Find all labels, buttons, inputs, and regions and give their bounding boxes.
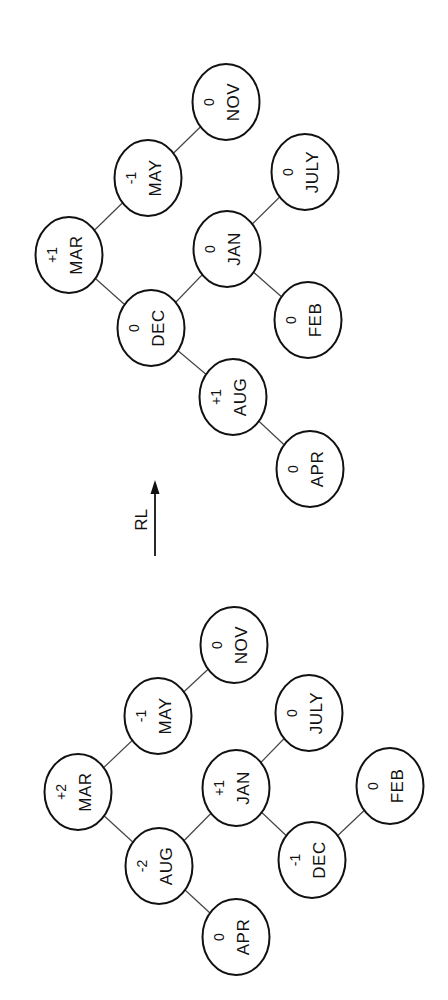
nodes-layer: +2MAR-1MAY0NOV-2AUG+1JAN0JULY0APR-1DEC0F… (36, 64, 424, 975)
balance-factor: +1 (208, 389, 224, 405)
node-label: AUG (157, 847, 176, 885)
node-label: JAN (234, 771, 253, 805)
node-label: APR (234, 919, 253, 955)
node-label: AUG (231, 378, 250, 416)
node-label: MAR (76, 772, 95, 811)
tree-node-may: -1MAY (125, 678, 192, 754)
balance-factor: 0 (202, 245, 218, 253)
node-label: JULY (303, 151, 322, 193)
tree-node-mar: +1MAR (36, 217, 103, 293)
node-label: FEB (388, 769, 407, 804)
tree-node-dec: 0DEC (118, 290, 185, 366)
tree-node-nov: 0NOV (193, 64, 260, 140)
balance-factor: 0 (285, 465, 301, 473)
tree-node-aug: +1AUG (200, 359, 267, 435)
node-label: JULY (307, 692, 326, 734)
node-label: MAR (67, 235, 86, 274)
node-label: DEC (310, 841, 329, 878)
node-label: MAY (146, 159, 165, 196)
arrow-up-icon (151, 480, 160, 494)
tree-node-july: 0JULY (272, 134, 339, 210)
node-label: FEB (306, 303, 325, 338)
tree-node-mar: +2MAR (45, 754, 112, 830)
node-label: NOV (232, 626, 251, 665)
node-label: JAN (225, 232, 244, 266)
tree-node-may: -1MAY (115, 140, 182, 216)
avl-rotation-diagram: +2MAR-1MAY0NOV-2AUG+1JAN0JULY0APR-1DEC0F… (0, 0, 448, 1000)
balance-factor: -2 (134, 860, 150, 873)
balance-factor: 0 (283, 316, 299, 324)
rotation-indicator: RL (132, 480, 160, 556)
tree-node-july: 0JULY (276, 675, 343, 751)
balance-factor: -1 (123, 172, 139, 185)
balance-factor: 0 (211, 933, 227, 941)
tree-after-rotation: +1MAR-1MAY0NOV0DEC0JAN0JULY0FEB+1AUG0APR (36, 64, 344, 507)
node-label: DEC (149, 309, 168, 346)
balance-factor: 0 (126, 324, 142, 332)
node-label: MAY (156, 697, 175, 734)
tree-node-apr: 0APR (203, 899, 270, 975)
balance-factor: 0 (209, 641, 225, 649)
tree-node-jan: 0JAN (194, 211, 261, 287)
tree-node-aug: -2AUG (126, 828, 193, 904)
balance-factor: 0 (280, 168, 296, 176)
balance-factor: -1 (287, 854, 303, 867)
tree-node-dec: -1DEC (279, 822, 346, 898)
tree-node-jan: +1JAN (203, 750, 270, 826)
balance-factor: 0 (284, 709, 300, 717)
balance-factor: -1 (133, 710, 149, 723)
node-label: APR (308, 451, 327, 487)
tree-before-rotation: +2MAR-1MAY0NOV-2AUG+1JAN0JULY0APR-1DEC0F… (45, 607, 424, 975)
node-label: NOV (224, 83, 243, 122)
tree-node-apr: 0APR (277, 431, 344, 507)
balance-factor: 0 (201, 98, 217, 106)
balance-factor: +2 (53, 784, 69, 800)
rotation-label: RL (132, 509, 151, 531)
tree-node-feb: 0FEB (275, 282, 342, 358)
balance-factor: +1 (44, 247, 60, 263)
balance-factor: +1 (211, 780, 227, 796)
tree-node-nov: 0NOV (201, 607, 268, 683)
balance-factor: 0 (365, 782, 381, 790)
tree-node-feb: 0FEB (357, 748, 424, 824)
